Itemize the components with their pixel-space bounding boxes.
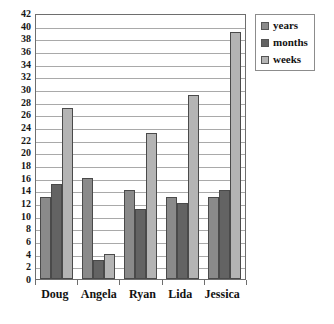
- bar-years-angela[interactable]: [82, 178, 93, 279]
- bar-group: [124, 15, 157, 279]
- plot-area: [35, 14, 246, 280]
- x-axis-tick: [35, 280, 36, 285]
- x-axis-tick: [77, 280, 78, 285]
- bars-layer: [36, 15, 245, 279]
- legend-swatch-years-icon: [261, 22, 269, 30]
- bar-years-lida[interactable]: [166, 197, 177, 279]
- bar-years-jessica[interactable]: [208, 197, 219, 279]
- y-axis: 024681012141618202224262830323436384042: [0, 14, 33, 280]
- y-axis-tick-label: 2: [26, 262, 31, 272]
- y-axis-tick-label: 18: [21, 161, 31, 171]
- x-axis-label-jessica: Jessica: [204, 287, 239, 302]
- y-axis-tick-label: 42: [21, 9, 31, 19]
- x-axis-label-angela: Angela: [81, 287, 117, 302]
- legend: yearsmonthsweeks: [255, 14, 315, 71]
- y-axis-tick-label: 0: [26, 275, 31, 285]
- bar-weeks-jessica[interactable]: [230, 32, 241, 279]
- bar-months-lida[interactable]: [177, 203, 188, 279]
- y-axis-tick-label: 36: [21, 47, 31, 57]
- x-axis-label-lida: Lida: [168, 287, 192, 302]
- bar-chart: 024681012141618202224262830323436384042 …: [0, 0, 334, 324]
- y-axis-tick-label: 38: [21, 34, 31, 44]
- y-axis-tick-label: 26: [21, 110, 31, 120]
- y-axis-tick-label: 12: [21, 199, 31, 209]
- y-axis-tick-label: 32: [21, 72, 31, 82]
- bar-group: [166, 15, 199, 279]
- legend-item-years[interactable]: years: [261, 20, 308, 31]
- x-axis-label-doug: Doug: [41, 287, 68, 302]
- y-axis-tick-label: 20: [21, 148, 31, 158]
- y-axis-tick-label: 10: [21, 212, 31, 222]
- bar-group: [208, 15, 241, 279]
- bar-years-ryan[interactable]: [124, 190, 135, 279]
- legend-label: weeks: [273, 54, 301, 65]
- y-axis-tick-label: 30: [21, 85, 31, 95]
- bar-weeks-lida[interactable]: [188, 95, 199, 279]
- legend-label: months: [273, 37, 308, 48]
- x-axis-tick: [204, 280, 205, 285]
- bar-weeks-doug[interactable]: [62, 108, 73, 279]
- bar-months-ryan[interactable]: [135, 209, 146, 279]
- x-axis-tick: [119, 280, 120, 285]
- y-axis-tick-label: 14: [21, 186, 31, 196]
- y-axis-tick-label: 34: [21, 60, 31, 70]
- x-axis-ticks: [35, 280, 246, 285]
- legend-swatch-months-icon: [261, 39, 269, 47]
- bar-months-angela[interactable]: [93, 260, 104, 279]
- bar-weeks-angela[interactable]: [104, 254, 115, 279]
- x-axis: DougAngelaRyanLidaJessica: [35, 287, 246, 307]
- x-axis-tick: [162, 280, 163, 285]
- bar-group: [40, 15, 73, 279]
- legend-item-weeks[interactable]: weeks: [261, 54, 308, 65]
- bar-group: [82, 15, 115, 279]
- bar-weeks-ryan[interactable]: [146, 133, 157, 279]
- y-axis-tick-label: 16: [21, 174, 31, 184]
- bar-months-jessica[interactable]: [219, 190, 230, 279]
- y-axis-tick-label: 4: [26, 250, 31, 260]
- x-axis-tick: [246, 280, 247, 285]
- y-axis-tick-label: 28: [21, 98, 31, 108]
- y-axis-tick-label: 6: [26, 237, 31, 247]
- legend-swatch-weeks-icon: [261, 56, 269, 64]
- y-axis-tick-label: 8: [26, 224, 31, 234]
- legend-label: years: [273, 20, 298, 31]
- x-axis-label-ryan: Ryan: [129, 287, 156, 302]
- bar-years-doug[interactable]: [40, 197, 51, 279]
- y-axis-tick-label: 40: [21, 22, 31, 32]
- legend-item-months[interactable]: months: [261, 37, 308, 48]
- y-axis-tick-label: 24: [21, 123, 31, 133]
- bar-months-doug[interactable]: [51, 184, 62, 279]
- y-axis-tick-label: 22: [21, 136, 31, 146]
